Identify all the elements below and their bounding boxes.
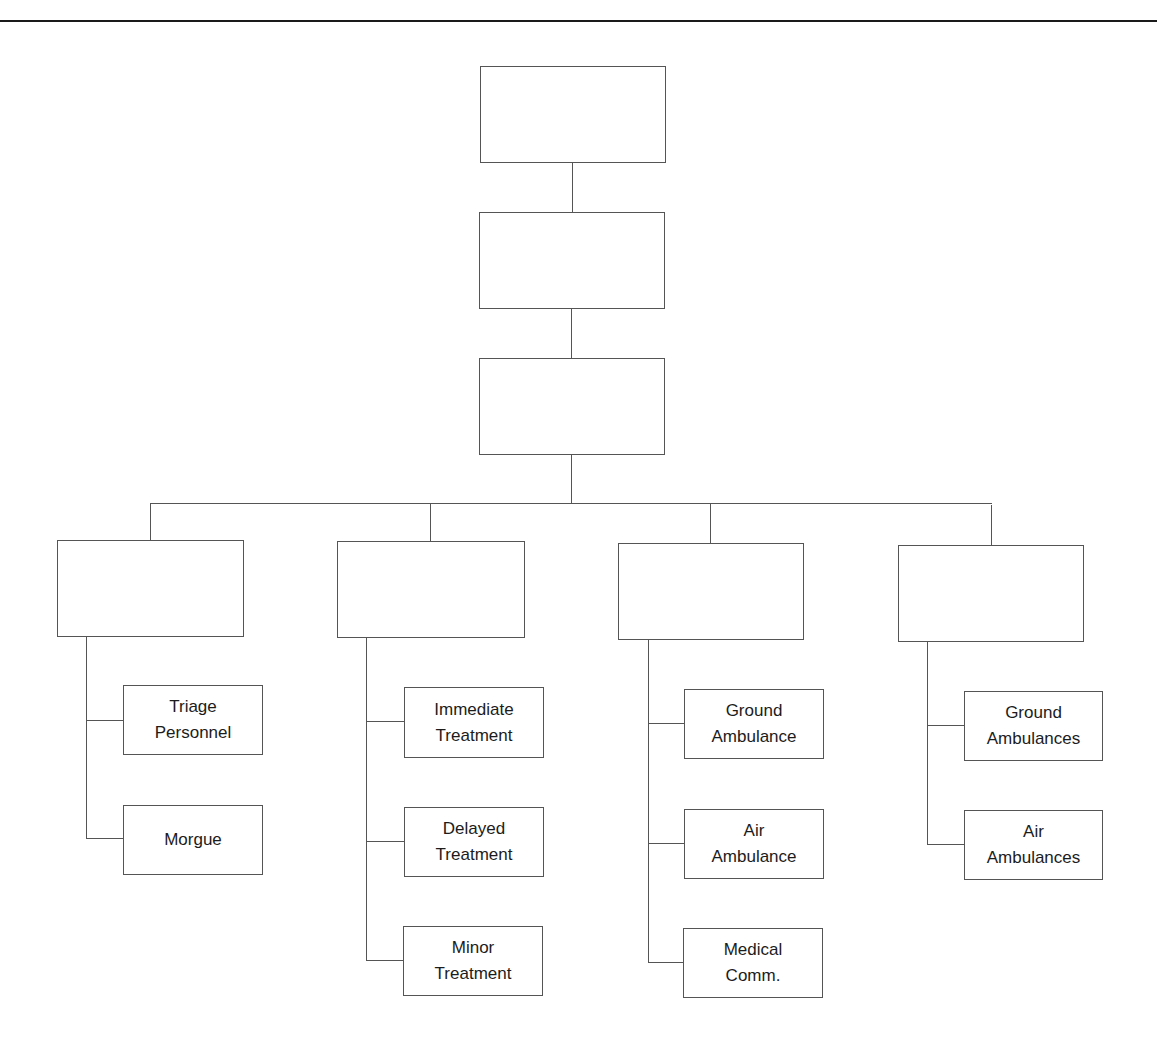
child-label: Triage Personnel [155,694,232,746]
tie-branch-4-child-2 [927,844,964,845]
child-label: Ground Ambulances [987,700,1081,752]
connector-level-1-2 [572,162,573,213]
page-header [0,0,1157,20]
tie-branch-1-child-2 [86,838,123,839]
connector-level-3-bus [571,454,572,504]
child-label: Minor Treatment [435,935,512,987]
child-label: Delayed Treatment [436,816,513,868]
tie-branch-3-child-1 [648,723,684,724]
org-box-branch-1 [57,540,244,637]
tie-branch-3-child-3 [648,962,684,963]
stem-branch-1 [86,636,87,839]
stem-branch-4 [927,641,928,845]
tie-branch-2-child-3 [366,960,404,961]
org-box-level-3 [479,358,665,455]
org-box-delayed-treatment: Delayed Treatment [404,807,544,877]
branch-bus [150,503,992,504]
child-label: Morgue [164,827,222,853]
org-box-air-ambulance: Air Ambulance [684,809,824,879]
stem-branch-3 [648,639,649,963]
header-rule [0,20,1157,22]
org-box-morgue: Morgue [123,805,263,875]
org-box-branch-4 [898,545,1084,642]
tie-branch-3-child-2 [648,843,684,844]
drop-branch-2 [430,503,431,542]
tie-branch-4-child-1 [927,725,964,726]
org-box-level-1 [480,66,666,163]
child-label: Ground Ambulance [711,698,796,750]
org-box-branch-2 [337,541,525,638]
child-label: Air Ambulances [987,819,1081,871]
connector-level-2-3 [571,308,572,359]
org-box-triage-personnel: Triage Personnel [123,685,263,755]
child-label: Air Ambulance [711,818,796,870]
tie-branch-2-child-1 [366,721,404,722]
drop-branch-1 [150,503,151,541]
org-box-ground-ambulances: Ground Ambulances [964,691,1103,761]
org-box-branch-3 [618,543,804,640]
tie-branch-2-child-2 [366,841,404,842]
child-label: Immediate Treatment [434,697,513,749]
org-box-minor-treatment: Minor Treatment [403,926,543,996]
child-label: Medical Comm. [724,937,783,989]
drop-branch-3 [710,504,711,544]
tie-branch-1-child-1 [86,720,123,721]
org-box-level-2 [479,212,665,309]
org-box-immediate-treatment: Immediate Treatment [404,687,544,758]
org-box-air-ambulances: Air Ambulances [964,810,1103,880]
org-box-ground-ambulance: Ground Ambulance [684,689,824,759]
stem-branch-2 [366,637,367,961]
drop-branch-4 [991,505,992,546]
org-box-medical-comm: Medical Comm. [683,928,823,998]
